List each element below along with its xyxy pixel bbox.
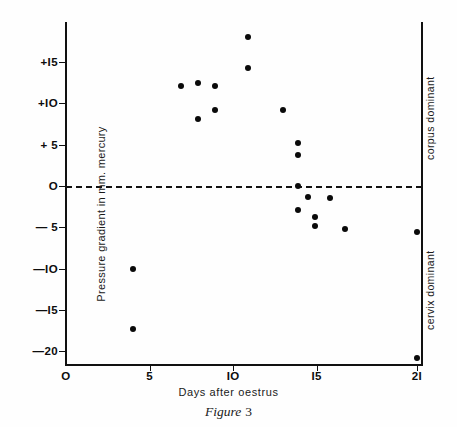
y-tick-label: +IO	[12, 97, 58, 109]
y-tick-label: —IO	[12, 263, 58, 275]
x-tick-label: 5	[146, 370, 153, 382]
y-tick-label: +I5	[12, 56, 58, 68]
data-point	[212, 83, 218, 89]
y-tick-label: —I5	[12, 304, 58, 316]
data-point	[245, 65, 251, 71]
x-tick-label: 2I	[412, 370, 422, 382]
y-tick-mark	[59, 103, 66, 104]
data-point	[295, 152, 301, 158]
data-point	[414, 355, 420, 361]
y-tick-mark	[59, 269, 66, 270]
data-point	[312, 223, 318, 229]
data-point	[130, 326, 136, 332]
y-tick-mark	[59, 227, 66, 228]
y-tick-mark	[59, 145, 66, 146]
data-point	[212, 107, 218, 113]
y-tick-mark	[59, 62, 66, 63]
x-tick-label: I5	[312, 370, 322, 382]
scatter-plot-area	[66, 22, 422, 365]
y-tick-label: O	[12, 180, 58, 192]
x-tick-label: IO	[227, 370, 240, 382]
data-point	[327, 195, 333, 201]
annotation-corpus-dominant: corpus dominant	[424, 76, 436, 160]
annotation-cervix-dominant: cervix dominant	[424, 250, 436, 330]
x-tick-label: O	[61, 370, 70, 382]
caption-number: 3	[245, 404, 252, 419]
figure-container: +I5+IO+ 5O— 5—IO—I5—20 O5IOI52I Pressure…	[0, 0, 457, 427]
x-axis-title: Days after oestrus	[0, 386, 457, 398]
y-tick-mark	[59, 310, 66, 311]
figure-caption: Figure3	[0, 404, 457, 420]
data-point	[130, 266, 136, 272]
y-tick-label: + 5	[12, 139, 58, 151]
y-axis-title: Pressure gradient in mm. mercury	[95, 126, 107, 301]
caption-word: Figure	[205, 404, 241, 419]
y-tick-label: — 5	[12, 221, 58, 233]
y-tick-mark	[59, 351, 66, 352]
y-tick-mark	[59, 186, 66, 187]
y-tick-label: —20	[12, 345, 58, 357]
